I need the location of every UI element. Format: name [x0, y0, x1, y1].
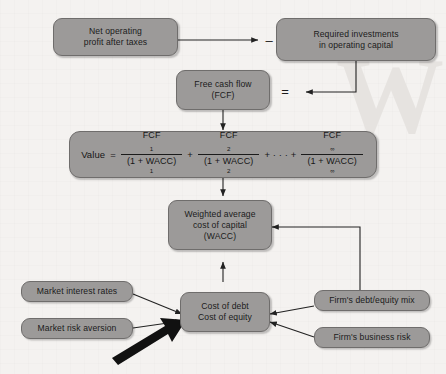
node-firms-debt-equity-mix[interactable]: Firm's debt/equity mix [314, 290, 430, 311]
node-firms-business-risk-label: Firm's business risk [333, 332, 410, 343]
formula-expression: Value = FCF1 (1 + WACC)1 + FCF2 (1 + WAC… [81, 130, 365, 180]
node-required-investments[interactable]: Required investments in operating capita… [276, 18, 436, 61]
formula-term-2-numerator: FCF2 [198, 130, 259, 155]
formula-plus-1: + [184, 149, 196, 160]
node-firms-debt-equity-mix-label: Firm's debt/equity mix [329, 295, 415, 306]
formula-term-1-denominator: (1 + WACC)1 [121, 155, 182, 179]
edge-mix-to-wacc [272, 227, 360, 290]
node-cost-of-capital-components[interactable]: Cost of debt Cost of equity [180, 292, 270, 332]
node-net-operating-profit[interactable]: Net operating profit after taxes [53, 18, 178, 56]
formula-value-label: Value [81, 149, 107, 160]
edge-interest-rates-to-costs [133, 294, 182, 314]
node-market-interest-rates[interactable]: Market interest rates [21, 281, 133, 302]
node-free-cash-flow[interactable]: Free cash flow (FCF) [176, 70, 270, 110]
formula-ellipsis: + · · · + [261, 149, 299, 160]
node-wacc[interactable]: Weighted average cost of capital (WACC) [168, 200, 272, 250]
node-investments-line1: Required investments [313, 29, 398, 40]
edge-mix-to-costs [270, 306, 314, 314]
node-wacc-line3: (WACC) [184, 231, 255, 242]
node-costs-line1: Cost of debt [198, 301, 252, 312]
formula-term-2-denominator: (1 + WACC)2 [198, 155, 259, 179]
node-fcf-line1: Free cash flow [194, 79, 251, 90]
formula-term-3-numerator: FCF∞ [301, 130, 362, 155]
formula-term-3-denominator: (1 + WACC)∞ [301, 155, 362, 179]
edge-business-risk-to-costs [270, 322, 314, 337]
node-firms-business-risk[interactable]: Firm's business risk [314, 327, 430, 348]
formula-term-1-numerator: FCF1 [121, 130, 182, 155]
node-valuation-formula[interactable]: Value = FCF1 (1 + WACC)1 + FCF2 (1 + WAC… [69, 131, 377, 178]
node-nopat-line2: profit after taxes [84, 37, 147, 48]
minus-operator: – [264, 34, 274, 47]
diagram-canvas: W [0, 0, 446, 374]
node-costs-line2: Cost of equity [198, 312, 252, 323]
node-market-risk-aversion[interactable]: Market risk aversion [21, 318, 133, 339]
node-wacc-line2: cost of capital [184, 220, 255, 231]
node-wacc-line1: Weighted average [184, 209, 255, 220]
formula-term-3: FCF∞ (1 + WACC)∞ [301, 130, 362, 180]
formula-term-2: FCF2 (1 + WACC)2 [198, 130, 259, 180]
node-market-risk-aversion-label: Market risk aversion [38, 323, 117, 334]
node-nopat-line1: Net operating [84, 26, 147, 37]
edge-investments-to-equals [306, 61, 356, 92]
formula-equals: = [107, 149, 119, 160]
node-market-interest-rates-label: Market interest rates [37, 286, 117, 297]
node-fcf-line2: (FCF) [194, 90, 251, 101]
formula-term-1: FCF1 (1 + WACC)1 [121, 130, 182, 180]
equals-operator: = [279, 85, 291, 98]
node-investments-line2: in operating capital [313, 40, 398, 51]
